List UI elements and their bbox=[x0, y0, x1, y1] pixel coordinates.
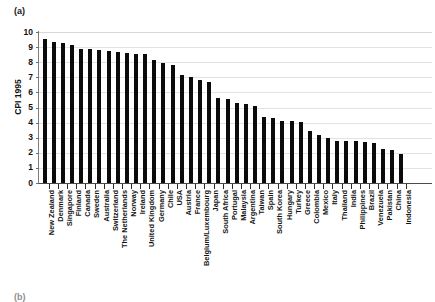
x-tick-label: Japan bbox=[212, 190, 219, 211]
x-tick-mark bbox=[204, 184, 205, 189]
bar bbox=[399, 154, 403, 183]
x-tick-mark bbox=[76, 184, 77, 189]
bar bbox=[299, 122, 303, 183]
bar bbox=[216, 98, 220, 183]
y-tick-label: 8 bbox=[3, 58, 33, 67]
y-tick-label: 9 bbox=[3, 43, 33, 52]
y-tick-label: 0 bbox=[3, 179, 33, 188]
x-tick-label: South Korea bbox=[276, 190, 283, 234]
x-tick-label: Malaysia bbox=[240, 190, 247, 221]
x-tick-mark bbox=[397, 184, 398, 189]
x-tick-mark bbox=[104, 184, 105, 189]
x-tick-label: United Kingdom bbox=[148, 190, 155, 247]
x-tick-mark bbox=[67, 184, 68, 189]
y-tick-label: 2 bbox=[3, 148, 33, 157]
bar bbox=[280, 121, 284, 183]
x-tick-label: USA bbox=[176, 190, 183, 206]
bar bbox=[308, 131, 312, 183]
next-panel-label: (b) bbox=[14, 292, 26, 302]
x-tick-mark bbox=[287, 184, 288, 189]
x-tick-mark bbox=[131, 184, 132, 189]
x-tick-mark bbox=[159, 184, 160, 189]
x-tick-label: Norway bbox=[130, 190, 137, 217]
bar bbox=[79, 49, 83, 183]
x-axis-line bbox=[39, 183, 432, 184]
x-tick-mark bbox=[168, 184, 169, 189]
x-tick-mark bbox=[323, 184, 324, 189]
bar bbox=[244, 104, 248, 183]
x-tick-label: Turkey bbox=[295, 190, 302, 214]
x-tick-mark bbox=[351, 184, 352, 189]
bar bbox=[143, 54, 147, 183]
x-tick-mark bbox=[177, 184, 178, 189]
x-tick-label: Indonesia bbox=[405, 190, 412, 225]
bar bbox=[152, 60, 156, 183]
x-tick-mark bbox=[314, 184, 315, 189]
gridline bbox=[39, 47, 432, 48]
x-tick-mark bbox=[95, 184, 96, 189]
y-tick-label: 10 bbox=[3, 28, 33, 37]
x-tick-label: Portugal bbox=[231, 190, 238, 220]
x-tick-mark bbox=[268, 184, 269, 189]
y-tick-label: 4 bbox=[3, 118, 33, 127]
bar bbox=[290, 121, 294, 183]
x-tick-label: Spain bbox=[267, 190, 274, 210]
bar bbox=[107, 51, 111, 183]
x-tick-label: Australia bbox=[103, 190, 110, 222]
x-tick-mark bbox=[387, 184, 388, 189]
x-tick-mark bbox=[259, 184, 260, 189]
bar bbox=[372, 143, 376, 183]
x-tick-label: Taiwan bbox=[258, 190, 265, 215]
bar bbox=[207, 82, 211, 183]
x-tick-label: France bbox=[194, 190, 201, 214]
x-tick-label: Brazil bbox=[368, 190, 375, 210]
bar bbox=[61, 43, 65, 183]
y-tick-label: 5 bbox=[3, 103, 33, 112]
x-tick-mark bbox=[85, 184, 86, 189]
x-tick-label: Thailand bbox=[341, 190, 348, 220]
x-tick-label: Belgium/Luxembourg bbox=[203, 190, 210, 266]
bar bbox=[171, 65, 175, 183]
x-tick-mark bbox=[140, 184, 141, 189]
y-tick-mark bbox=[36, 183, 39, 184]
x-tick-label: New Zealand bbox=[48, 190, 55, 235]
x-tick-mark bbox=[223, 184, 224, 189]
bar bbox=[52, 42, 56, 183]
x-tick-mark bbox=[232, 184, 233, 189]
x-tick-label: Italy bbox=[331, 190, 338, 205]
x-tick-label: Hungary bbox=[286, 190, 293, 220]
bar bbox=[262, 117, 266, 183]
x-tick-label: Colombia bbox=[313, 190, 320, 224]
bar bbox=[198, 80, 202, 183]
x-tick-label: Sweden bbox=[93, 190, 100, 218]
x-tick-mark bbox=[406, 184, 407, 189]
x-tick-label: Germany bbox=[158, 190, 165, 222]
x-tick-label: Switzerland bbox=[112, 190, 119, 231]
x-tick-label: Philippines bbox=[359, 190, 366, 229]
bar bbox=[335, 141, 339, 183]
x-tick-label: China bbox=[395, 190, 402, 211]
bar bbox=[189, 77, 193, 183]
x-tick-label: Denmark bbox=[57, 190, 64, 222]
plot-area bbox=[39, 32, 432, 183]
x-tick-label: Canada bbox=[84, 190, 91, 217]
bar bbox=[253, 106, 257, 183]
x-tick-mark bbox=[378, 184, 379, 189]
x-tick-label: Argentina bbox=[249, 190, 256, 225]
bar bbox=[161, 63, 165, 183]
x-tick-mark bbox=[49, 184, 50, 189]
y-tick-label: 6 bbox=[3, 88, 33, 97]
bar bbox=[116, 52, 120, 183]
x-tick-label: Venezuela bbox=[377, 190, 384, 226]
x-tick-label: The Netherlands bbox=[121, 190, 128, 248]
bar bbox=[125, 53, 129, 183]
x-tick-mark bbox=[360, 184, 361, 189]
x-tick-label: Pakistan bbox=[386, 190, 393, 220]
x-tick-label: India bbox=[350, 190, 357, 207]
x-tick-mark bbox=[149, 184, 150, 189]
bar bbox=[97, 50, 101, 183]
y-tick-label: 1 bbox=[3, 163, 33, 172]
x-tick-mark bbox=[195, 184, 196, 189]
bar bbox=[344, 141, 348, 183]
